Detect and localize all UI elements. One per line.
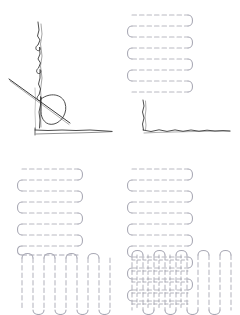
- cross-hatch-overlap: [132, 255, 188, 310]
- outline-sketch-svg: [0, 0, 120, 158]
- panel-partial-coverage: [0, 156, 120, 315]
- horizontal-serpentine-block: [132, 169, 188, 301]
- horizontal-sketch-baseline: [35, 130, 112, 131]
- horizontal-sketch-baseline-echo: [36, 132, 112, 134]
- figure-grid: [0, 0, 240, 315]
- vertical-serpentine-block: [22, 258, 110, 310]
- horizontal-serpentine-block: [132, 15, 188, 92]
- horizontal-serpentine-turns: [18, 169, 83, 255]
- partial-coverage-svg: [0, 156, 120, 315]
- horizontal-serpentine-turns: [128, 169, 193, 301]
- horizontal-sweep-svg: [118, 0, 240, 158]
- panel-horizontal-sweep: [118, 0, 240, 158]
- horizontal-serpentine-block: [22, 169, 78, 246]
- complete-coverage-svg: [118, 156, 240, 315]
- horizontal-sketch-baseline-echo: [144, 131, 230, 133]
- horizontal-serpentine-turns: [128, 15, 193, 92]
- vertical-serpentine-block: [132, 255, 231, 310]
- vertical-sketch-edge-echo: [145, 101, 146, 130]
- teardrop-loop: [41, 95, 66, 125]
- vertical-sketch-edge-secondary: [35, 88, 36, 130]
- panel-region-outline: [0, 0, 120, 158]
- vertical-sketch-edge: [143, 100, 145, 130]
- panel-complete-coverage: [118, 156, 240, 315]
